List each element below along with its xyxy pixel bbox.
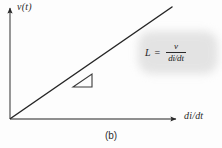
equation-fraction: v di/dt xyxy=(166,42,186,63)
equation-denominator: di/dt xyxy=(166,53,186,63)
x-axis-label: di/dt xyxy=(184,111,203,121)
equation-equals-sign: = xyxy=(155,48,167,58)
figure-container: v(t) di/dt L = v di/dt (b) xyxy=(0,0,222,148)
y-axis-label: v(t) xyxy=(17,2,32,12)
equation-lhs: L xyxy=(145,48,155,58)
equation-numerator: v xyxy=(170,42,182,52)
plot-area xyxy=(0,0,222,148)
inductance-equation: L = v di/dt xyxy=(145,42,186,63)
slope-triangle-marker xyxy=(73,74,92,87)
figure-caption: (b) xyxy=(0,130,222,141)
